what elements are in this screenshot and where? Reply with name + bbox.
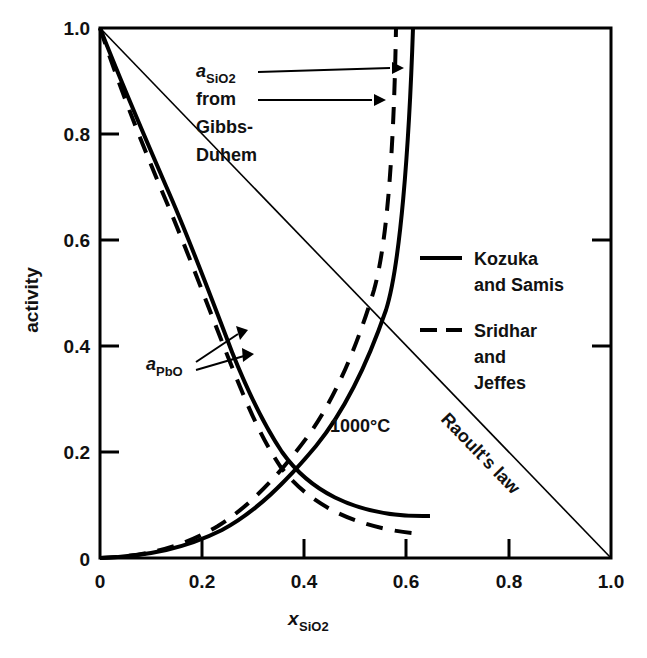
annotation-apbo-a: a xyxy=(146,354,156,374)
y-tick-label-0-6: 0.6 xyxy=(64,230,90,251)
legend: Kozuka and Samis Sridhar and Jeffes xyxy=(420,249,564,393)
x-tick-label-0-2: 0.2 xyxy=(189,571,215,592)
legend-label-kozuka-line1: Kozuka xyxy=(474,249,539,269)
annotation-asio2-leader-upper xyxy=(258,68,390,72)
series-asio2-kozuka-samis xyxy=(100,28,413,558)
annotation-temperature: 1000°C xyxy=(330,416,390,436)
legend-label-sridhar-line2: and xyxy=(474,347,506,367)
y-tick-marks xyxy=(100,134,119,452)
annotation-asio2-sub: SiO2 xyxy=(206,71,236,86)
series-asio2-sridhar-jeffes xyxy=(100,28,396,558)
annotation-asio2-arrow-upper xyxy=(392,62,404,74)
x-tick-label-0-8: 0.8 xyxy=(496,571,522,592)
y-tick-label-0-2: 0.2 xyxy=(64,442,90,463)
x-tick-label-0: 0 xyxy=(95,571,106,592)
annotation-asio2-a: a xyxy=(196,61,206,81)
y-tick-label-0-4: 0.4 xyxy=(64,336,91,357)
x-tick-label-1-0: 1.0 xyxy=(598,571,624,592)
chart-canvas: 0 0.2 0.4 0.6 0.8 1.0 0 0.2 0.4 0.6 0.8 … xyxy=(0,0,647,658)
annotation-apbo-arrow-lower xyxy=(242,348,254,362)
y-axis-title: activity xyxy=(21,267,42,333)
annotation-asio2-gibbs: Gibbs- xyxy=(196,117,253,137)
legend-label-sridhar-line3: Jeffes xyxy=(474,373,526,393)
legend-label-sridhar-line1: Sridhar xyxy=(474,321,537,341)
x-tick-label-0-4: 0.4 xyxy=(291,571,318,592)
right-edge-ticks xyxy=(592,240,611,346)
x-tick-marks xyxy=(202,539,509,558)
legend-label-kozuka-line2: and Samis xyxy=(474,275,564,295)
x-axis-title: x SiO2 xyxy=(287,608,329,634)
annotation-apbo-sub: PbO xyxy=(156,364,183,379)
x-tick-label-0-6: 0.6 xyxy=(393,571,419,592)
y-tick-label-1-0: 1.0 xyxy=(64,18,90,39)
annotation-asio2-duhem: Duhem xyxy=(196,145,257,165)
y-tick-label-0: 0 xyxy=(79,549,90,570)
annotation-asio2-from: from xyxy=(196,89,236,109)
series-apbo-sridhar-jeffes xyxy=(100,28,422,534)
x-axis-title-sub: SiO2 xyxy=(299,619,329,634)
annotation-asio2-gibbs-duhem: a SiO2 from Gibbs- Duhem xyxy=(196,61,404,165)
figure-activity-vs-xsio2: 0 0.2 0.4 0.6 0.8 1.0 0 0.2 0.4 0.6 0.8 … xyxy=(0,0,647,658)
y-tick-label-0-8: 0.8 xyxy=(64,124,90,145)
annotation-apbo-arrow-upper xyxy=(236,326,248,340)
annotation-asio2-arrow-lower xyxy=(374,94,386,106)
